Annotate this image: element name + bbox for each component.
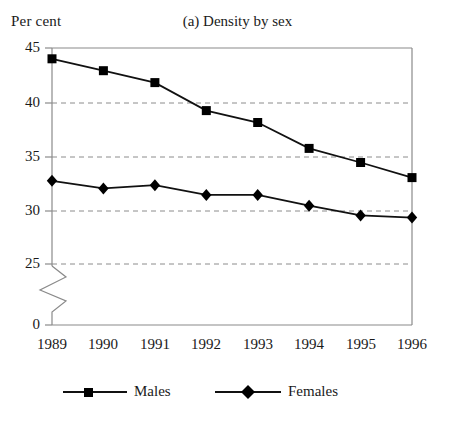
chart-figure: Per cent (a) Density by sex	[0, 0, 449, 421]
y-tick-label-40: 40	[8, 94, 40, 111]
y-tick-label-35: 35	[8, 148, 40, 165]
x-tick-label-1994: 1994	[283, 336, 335, 353]
data-point-marker	[253, 118, 262, 127]
data-point-marker	[355, 209, 365, 221]
y-tick-label-30: 30	[8, 202, 40, 219]
series-males	[48, 54, 417, 182]
data-point-marker	[305, 144, 314, 153]
data-point-marker	[304, 200, 314, 212]
x-tick-label-1989: 1989	[26, 336, 78, 353]
data-point-marker	[98, 182, 108, 194]
data-point-marker	[407, 212, 417, 224]
legend-square-marker	[84, 388, 93, 397]
x-tick-label-1990: 1990	[77, 336, 129, 353]
data-point-marker	[150, 78, 159, 87]
axis-break-zigzag	[40, 266, 66, 325]
data-point-marker	[356, 158, 365, 167]
legend-item-females: Females	[288, 383, 338, 400]
gridlines	[52, 103, 412, 264]
data-point-marker	[408, 173, 417, 182]
data-point-marker	[47, 175, 57, 187]
y-axis-line	[40, 48, 66, 325]
y-tick-label-0: 0	[8, 316, 40, 333]
y-tick-marks	[45, 48, 52, 325]
x-tick-label-1993: 1993	[232, 336, 284, 353]
series-females	[47, 175, 417, 224]
y-tick-label-25: 25	[8, 255, 40, 272]
data-point-marker	[253, 189, 263, 201]
legend-diamond-marker	[241, 385, 255, 399]
data-point-marker	[201, 189, 211, 201]
data-point-marker	[99, 66, 108, 75]
data-point-marker	[48, 54, 57, 63]
legend-marks	[63, 385, 281, 399]
x-tick-label-1991: 1991	[129, 336, 181, 353]
x-tick-label-1996: 1996	[386, 336, 438, 353]
chart-canvas	[0, 0, 449, 421]
data-series-layer	[47, 54, 417, 223]
data-point-marker	[150, 179, 160, 191]
y-tick-label-45: 45	[8, 39, 40, 56]
x-tick-label-1995: 1995	[335, 336, 387, 353]
x-tick-label-1992: 1992	[180, 336, 232, 353]
data-point-marker	[202, 106, 211, 115]
legend-item-males: Males	[134, 383, 171, 400]
